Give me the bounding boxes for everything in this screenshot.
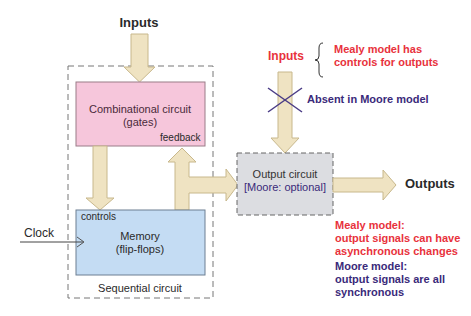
top-inputs-label: Inputs <box>120 16 159 31</box>
outputs-arrow <box>333 170 396 200</box>
moore-optional-label: [Moore: optional] <box>244 181 326 194</box>
combinational-gates-label: (gates) <box>123 116 157 129</box>
combinational-circuit-label: Combinational circuit <box>89 103 191 116</box>
mealy-note-line1: Mealy model has <box>334 43 422 56</box>
absent-in-moore-label: Absent in Moore model <box>307 93 429 106</box>
memory-label: Memory <box>120 230 160 243</box>
controls-label: controls <box>81 211 116 223</box>
mealy-note-line2: controls for outputs <box>334 56 439 69</box>
feedback-label: feedback <box>160 132 201 144</box>
moore-note-title: Moore model: <box>335 260 407 273</box>
mealy-note-line-2: output signals can have <box>335 232 460 245</box>
top-inputs-arrow <box>124 34 155 82</box>
clock-label: Clock <box>24 227 54 241</box>
mealy-note-line-3: asynchronous changes <box>335 245 458 258</box>
mealy-note-title: Mealy model: <box>335 219 405 232</box>
flip-flops-label: (flip-flops) <box>116 243 164 256</box>
sequential-circuit-label: Sequential circuit <box>98 282 182 295</box>
output-circuit-label: Output circuit <box>253 168 318 181</box>
moore-note-line-2: output signals are all <box>335 273 445 286</box>
mealy-inputs-label: Inputs <box>268 50 304 64</box>
mealy-inputs-arrow <box>271 72 299 153</box>
moore-note-line-3: synchronous <box>335 286 404 299</box>
comb-to-memory-arrow <box>86 146 114 210</box>
feedback-and-state-arrow <box>168 148 238 210</box>
curly-brace-icon <box>315 43 323 77</box>
outputs-label: Outputs <box>405 177 455 192</box>
